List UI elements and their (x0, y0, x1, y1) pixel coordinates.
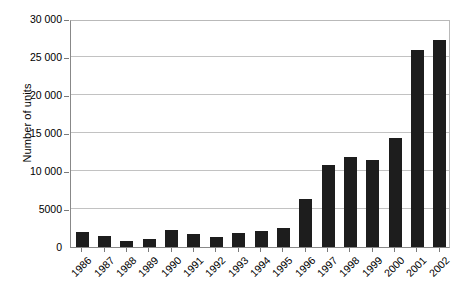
y-tick-mark-25000 (64, 58, 69, 59)
bar-2001 (411, 50, 424, 247)
bar-1988 (120, 241, 133, 247)
bar-1987 (98, 236, 111, 247)
x-tick-mark-2000 (394, 248, 395, 252)
y-tick-mark-20000 (64, 96, 69, 97)
bar-1998 (344, 157, 357, 247)
bar-1995 (277, 228, 290, 247)
bar-1992 (210, 237, 223, 247)
x-tick-mark-1989 (148, 248, 149, 252)
y-tick-label-10000: 10 000 (0, 165, 62, 177)
x-tick-mark-1993 (238, 248, 239, 252)
y-tick-label-30000: 30 000 (0, 13, 62, 25)
gridline-25000 (71, 56, 449, 57)
bar-1994 (255, 231, 268, 247)
x-tick-mark-1991 (193, 248, 194, 252)
bar-1997 (322, 165, 335, 247)
x-tick-mark-1996 (305, 248, 306, 252)
x-tick-mark-2001 (416, 248, 417, 252)
x-tick-mark-1990 (171, 248, 172, 252)
y-tick-label-25000: 25 000 (0, 51, 62, 63)
bar-1996 (299, 199, 312, 247)
y-tick-mark-15000 (64, 134, 69, 135)
gridline-20000 (71, 94, 449, 95)
y-tick-label-15000: 15 000 (0, 127, 62, 139)
bar-1993 (232, 233, 245, 247)
x-tick-mark-1986 (81, 248, 82, 252)
bar-chart-figure: Number of units 0500010 00015 00020 0002… (0, 0, 463, 289)
y-tick-label-5000: 5000 (0, 203, 62, 215)
x-tick-mark-1995 (282, 248, 283, 252)
x-tick-mark-1999 (372, 248, 373, 252)
x-tick-mark-1987 (104, 248, 105, 252)
bar-2002 (433, 40, 446, 247)
x-tick-mark-2002 (439, 248, 440, 252)
bar-1999 (366, 160, 379, 247)
y-tick-mark-5000 (64, 210, 69, 211)
x-tick-mark-1998 (349, 248, 350, 252)
bar-1989 (143, 239, 156, 247)
y-tick-mark-10000 (64, 172, 69, 173)
x-tick-mark-1997 (327, 248, 328, 252)
plot-area (70, 20, 450, 248)
y-tick-label-0: 0 (0, 241, 62, 253)
bar-1991 (187, 234, 200, 247)
y-tick-mark-30000 (64, 20, 69, 21)
gridline-15000 (71, 132, 449, 133)
bar-1986 (76, 232, 89, 247)
y-tick-label-20000: 20 000 (0, 89, 62, 101)
bar-2000 (389, 138, 402, 247)
x-tick-mark-1988 (126, 248, 127, 252)
x-tick-mark-1994 (260, 248, 261, 252)
x-tick-mark-1992 (215, 248, 216, 252)
bar-1990 (165, 230, 178, 247)
